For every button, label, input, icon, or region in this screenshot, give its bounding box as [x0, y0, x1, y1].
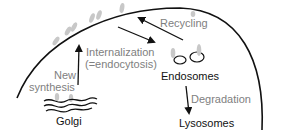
degradation-text: Degradation: [191, 93, 251, 105]
internalization-line2: (=endocytosis): [85, 58, 157, 70]
golgi-shape: [44, 93, 97, 112]
new-synthesis-label: New: [54, 70, 76, 81]
internalization-line1: Internalization: [86, 46, 155, 58]
golgi-text: Golgi: [56, 115, 82, 127]
degradation-label: Degradation: [191, 94, 251, 105]
lysosomes-label: Lysosomes: [179, 118, 234, 129]
new-synthesis-arrow: [78, 46, 79, 85]
internalization-label2: (=endocytosis): [85, 59, 157, 70]
degradation-arrow: [186, 86, 189, 113]
new-synthesis-line2: synthesis: [29, 81, 75, 93]
internalization-label: Internalization: [86, 47, 155, 58]
endosomes-label: Endosomes: [161, 71, 219, 82]
golgi-label: Golgi: [56, 116, 82, 127]
internalization-arrow: [118, 27, 154, 42]
new-synthesis-label2: synthesis: [29, 82, 75, 93]
lysosomes-text: Lysosomes: [179, 117, 234, 129]
new-synthesis-line1: New: [54, 70, 76, 81]
recycling-label: Recycling: [160, 18, 208, 29]
recycling-text: Recycling: [160, 17, 208, 29]
endosomes-shapes: [171, 44, 204, 64]
endosomes-text: Endosomes: [161, 70, 219, 82]
